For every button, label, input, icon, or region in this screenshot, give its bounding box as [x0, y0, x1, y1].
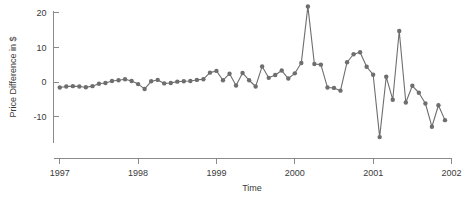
- data-point: [221, 78, 225, 82]
- chart-container: 20100-10 Price Difference in $ 199719981…: [0, 0, 462, 199]
- data-point: [240, 71, 244, 75]
- data-point: [58, 85, 62, 89]
- data-point: [377, 135, 381, 139]
- x-tick-label: 2001: [363, 168, 383, 178]
- data-point: [214, 69, 218, 73]
- data-point: [90, 84, 94, 88]
- data-point: [195, 78, 199, 82]
- data-point: [325, 85, 329, 89]
- data-point: [273, 73, 277, 77]
- data-point: [116, 78, 120, 82]
- data-point: [338, 88, 342, 92]
- data-point: [364, 65, 368, 69]
- data-point: [84, 85, 88, 89]
- data-point: [71, 84, 75, 88]
- data-point: [417, 91, 421, 95]
- data-point: [97, 82, 101, 86]
- data-point: [110, 79, 114, 83]
- y-tick-label: 10: [36, 43, 46, 53]
- data-point: [319, 62, 323, 66]
- data-point: [175, 79, 179, 83]
- x-axis-ticks: 199719981999200020012002: [50, 159, 462, 179]
- data-point: [299, 61, 303, 65]
- data-point: [306, 4, 310, 8]
- price-difference-line-chart: 20100-10 Price Difference in $ 199719981…: [0, 0, 462, 199]
- data-point: [64, 84, 68, 88]
- data-point: [332, 86, 336, 90]
- data-point: [182, 79, 186, 83]
- data-point: [142, 87, 146, 91]
- data-point: [404, 100, 408, 104]
- data-point: [208, 70, 212, 74]
- data-point: [397, 29, 401, 33]
- data-point: [188, 79, 192, 83]
- x-axis-label: Time: [242, 183, 262, 193]
- x-tick-label: 1999: [206, 168, 226, 178]
- data-point: [162, 81, 166, 85]
- series-line-price-difference: [60, 6, 445, 137]
- data-point: [345, 60, 349, 64]
- data-point: [103, 81, 107, 85]
- data-point: [280, 68, 284, 72]
- y-axis-ticks: 20100-10: [33, 8, 58, 122]
- x-tick-label: 1998: [128, 168, 148, 178]
- y-axis-label: Price Difference in $: [8, 37, 18, 118]
- data-point: [77, 84, 81, 88]
- y-tick-label: 20: [36, 8, 46, 18]
- x-tick-label: 1997: [50, 168, 70, 178]
- data-point: [436, 103, 440, 107]
- data-point: [149, 79, 153, 83]
- data-point: [371, 73, 375, 77]
- y-axis: 20100-10 Price Difference in $: [8, 8, 59, 143]
- data-point: [253, 84, 257, 88]
- data-point: [430, 125, 434, 129]
- data-point: [136, 82, 140, 86]
- x-axis: 199719981999200020012002 Time: [50, 159, 462, 194]
- y-tick-label: 0: [41, 77, 46, 87]
- x-tick-label: 2000: [285, 168, 305, 178]
- data-point: [156, 78, 160, 82]
- data-point: [312, 62, 316, 66]
- data-point: [227, 71, 231, 75]
- data-point: [260, 64, 264, 68]
- data-point: [267, 76, 271, 80]
- data-point: [234, 83, 238, 87]
- data-point: [391, 97, 395, 101]
- y-tick-label: -10: [33, 112, 46, 122]
- data-point: [423, 101, 427, 105]
- x-tick-label: 2002: [441, 168, 461, 178]
- data-point: [286, 76, 290, 80]
- data-point: [123, 77, 127, 81]
- data-point: [351, 52, 355, 56]
- data-point: [384, 75, 388, 79]
- series-markers-price-difference: [58, 4, 448, 139]
- data-point: [169, 81, 173, 85]
- data-point: [410, 84, 414, 88]
- data-point: [443, 118, 447, 122]
- data-series-group: [58, 4, 448, 139]
- data-point: [129, 79, 133, 83]
- data-point: [247, 78, 251, 82]
- data-point: [358, 50, 362, 54]
- data-point: [201, 77, 205, 81]
- data-point: [293, 71, 297, 75]
